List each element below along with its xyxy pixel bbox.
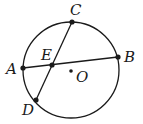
- point-a: [20, 65, 25, 70]
- label-e: E: [40, 46, 52, 64]
- label-a: A: [4, 60, 17, 78]
- label-b: B: [123, 48, 135, 66]
- chord-ab: [23, 57, 118, 68]
- point-c: [69, 19, 74, 24]
- geometry-diagram: A B C D E O: [0, 0, 143, 124]
- point-b: [115, 54, 120, 59]
- label-c: C: [70, 1, 82, 19]
- point-o: [69, 69, 73, 73]
- point-d: [33, 97, 38, 102]
- label-o: O: [76, 68, 88, 86]
- label-d: D: [21, 101, 34, 119]
